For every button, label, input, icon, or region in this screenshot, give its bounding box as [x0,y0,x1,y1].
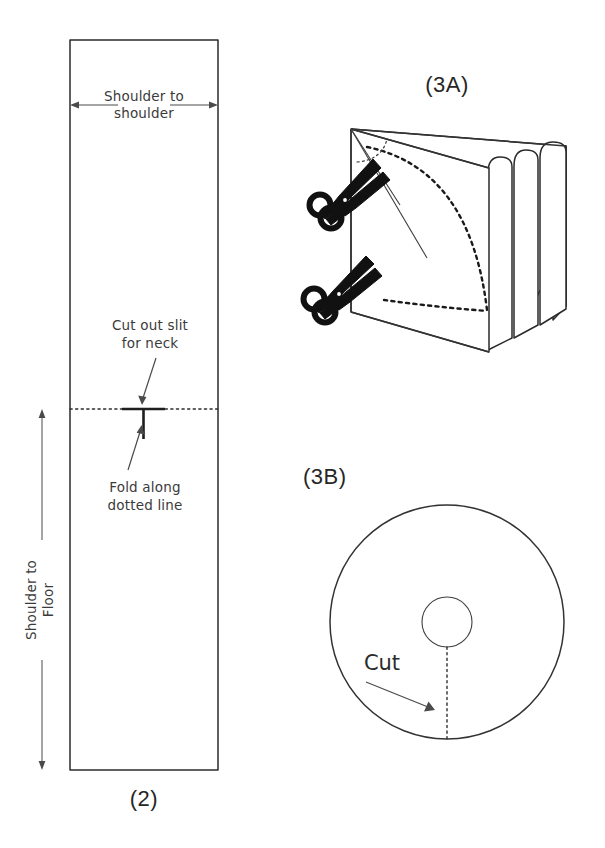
neck-hole-circle [422,597,472,647]
diagram-sheet: Shoulder to shoulder Cut out slit for ne… [0,0,605,848]
fabric-rectangle [70,40,218,770]
panel-label-3b: (3B) [303,464,347,489]
cloth-flap-4 [540,142,566,325]
panel-label-2: (2) [130,786,158,811]
fold-note-line1: Fold along [109,479,181,495]
width-dimension-label-line2: shoulder [114,105,174,121]
panel-label-3a: (3A) [425,72,469,97]
pattern-diagram: Shoulder to shoulder Cut out slit for ne… [0,0,605,848]
fold-note-line2: dotted line [107,497,182,513]
cut-label: Cut [364,651,400,675]
height-dimension-label-line1: Shoulder to [23,560,39,640]
neck-slit-note-line1: Cut out slit [112,317,188,333]
width-dimension-label-line1: Shoulder to [104,88,184,104]
panel-2-group: Shoulder to shoulder Cut out slit for ne… [23,40,218,811]
panel-3a-group: (3A) [304,72,567,352]
arrowhead-up [39,409,46,418]
arrowhead-down [39,761,46,770]
cut-leader-arrow [366,682,435,712]
height-dimension-label-line2: Floor [40,582,56,617]
panel-3b-group: (3B) Cut [303,464,564,739]
cloth-flap-2 [488,157,512,350]
cloth-flap-3 [514,150,538,338]
neck-slit-note-line2: for neck [122,335,179,351]
